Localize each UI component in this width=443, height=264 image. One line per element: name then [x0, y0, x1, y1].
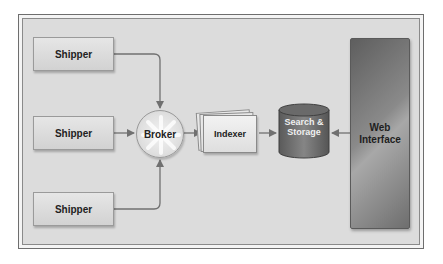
shipper-node-3: Shipper [33, 192, 114, 226]
broker-label: Broker [144, 129, 176, 140]
shipper-node-2: Shipper [33, 116, 114, 150]
indexer-node: Indexer [197, 111, 259, 155]
shipper-node-1: Shipper [33, 37, 114, 71]
shipper-label: Shipper [55, 49, 92, 60]
storage-label-line1: Search & [278, 117, 330, 127]
web-label-line2: Interface [359, 134, 401, 146]
storage-label: Search & Storage [278, 117, 330, 137]
shipper-label: Shipper [55, 204, 92, 215]
indexer-front-sheet: Indexer [203, 115, 257, 153]
broker-node: Broker [136, 110, 184, 158]
web-label-line1: Web [359, 122, 401, 134]
indexer-label: Indexer [214, 129, 246, 139]
storage-label-line2: Storage [278, 127, 330, 137]
web-interface-node: Web Interface [350, 38, 410, 229]
shipper-label: Shipper [55, 128, 92, 139]
